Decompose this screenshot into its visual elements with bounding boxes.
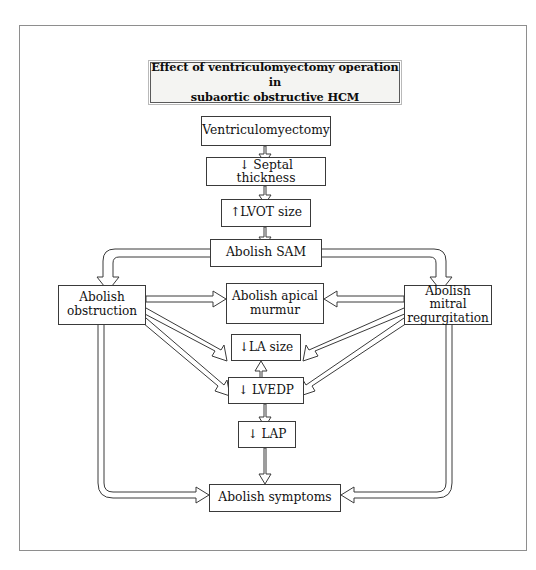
node-abolish-apical-murmur-line2: murmur: [250, 303, 300, 317]
node-abolish-mitral-line2: regurgitation: [407, 311, 489, 325]
node-septal-thickness: ↓ Septal thickness: [206, 157, 326, 186]
figure-title-line1: Effect of ventriculomyectomy operation i…: [151, 60, 398, 89]
node-la-size-label: ↓LA size: [236, 341, 296, 355]
node-lap-label: ↓ LAP: [245, 428, 290, 442]
node-ventriculomyectomy-label: Ventriculomyectomy: [199, 124, 333, 138]
node-lvot-size-label: ↑LVOT size: [227, 206, 305, 220]
node-la-size: ↓LA size: [231, 334, 301, 361]
node-abolish-symptoms: Abolish symptoms: [209, 484, 341, 512]
node-abolish-symptoms-label: Abolish symptoms: [215, 491, 334, 505]
node-abolish-sam-label: Abolish SAM: [223, 246, 309, 260]
node-lvedp-label: ↓ LVEDP: [235, 384, 297, 398]
node-abolish-mitral-line1: Abolish mitral: [425, 284, 471, 312]
node-abolish-obstruction-line1: Abolish: [79, 290, 125, 304]
node-ventriculomyectomy: Ventriculomyectomy: [201, 116, 331, 146]
node-abolish-apical-murmur-line1: Abolish apical: [232, 289, 318, 303]
node-abolish-obstruction-line2: obstruction: [67, 304, 137, 318]
node-lvedp: ↓ LVEDP: [228, 377, 304, 404]
figure-title-line2: subaortic obstructive HCM: [191, 90, 360, 104]
node-abolish-sam: Abolish SAM: [210, 239, 322, 267]
figure-canvas: Effect of ventriculomyectomy operation i…: [0, 0, 536, 570]
node-septal-thickness-label: ↓ Septal thickness: [207, 159, 325, 184]
node-abolish-apical-murmur: Abolish apical murmur: [226, 283, 324, 324]
node-lap: ↓ LAP: [238, 421, 296, 448]
node-abolish-obstruction: Abolish obstruction: [58, 285, 146, 325]
node-abolish-mitral-regurgitation: Abolish mitral regurgitation: [404, 285, 492, 325]
node-lvot-size: ↑LVOT size: [221, 199, 311, 227]
figure-title: Effect of ventriculomyectomy operation i…: [150, 62, 400, 103]
